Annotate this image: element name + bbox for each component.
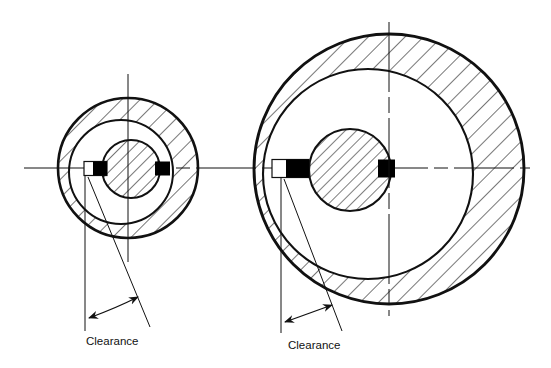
small-keyway-left [84, 162, 107, 176]
diagram-canvas: Clearance Clearance [0, 0, 551, 368]
large-keyway-left [272, 160, 309, 178]
small-keyway-right [155, 162, 170, 176]
large-keyway-right [378, 160, 395, 178]
bearing-clearance-diagram: Clearance Clearance [0, 0, 551, 368]
large-bearing-view: Clearance [248, 22, 538, 351]
large-clearance-label: Clearance [288, 339, 340, 351]
small-shaft [102, 140, 160, 198]
small-clearance-label: Clearance [86, 335, 138, 347]
